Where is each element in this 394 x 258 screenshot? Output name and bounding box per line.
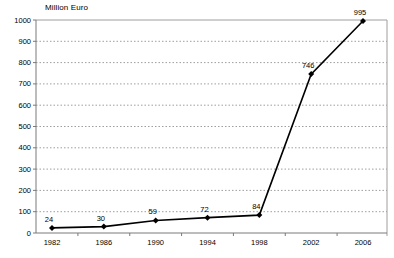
x-axis-tick-label: 2002 <box>303 238 320 247</box>
chart-window: Million Euro 010020030040050060070080090… <box>0 0 394 258</box>
y-axis-tick-label: 1000 <box>14 16 31 25</box>
data-point-marker <box>153 217 159 223</box>
data-point-marker <box>205 215 211 221</box>
data-point-label: 995 <box>354 8 367 17</box>
data-point-label: 84 <box>252 202 260 211</box>
x-axis-tick-label: 1982 <box>44 238 61 247</box>
y-axis-tick-label: 600 <box>18 101 31 110</box>
y-axis-tick-label: 100 <box>18 207 31 216</box>
x-axis-tick-label: 1986 <box>95 238 112 247</box>
x-axis-tick-label: 1994 <box>199 238 216 247</box>
y-axis-tick-label: 900 <box>18 37 31 46</box>
data-point-label: 24 <box>45 215 53 224</box>
y-axis-tick-label: 800 <box>18 58 31 67</box>
y-axis-tick-label: 500 <box>18 122 31 131</box>
x-axis-tick-label: 2006 <box>355 238 372 247</box>
data-point-marker <box>256 212 262 218</box>
data-point-label: 59 <box>148 207 156 216</box>
y-axis-tick-label: 200 <box>18 186 31 195</box>
data-point-label: 72 <box>200 205 208 214</box>
y-axis-tick-label: 400 <box>18 143 31 152</box>
data-point-marker <box>49 225 55 231</box>
data-point-label: 30 <box>97 214 105 223</box>
y-axis-tick-label: 0 <box>27 229 31 238</box>
y-axis-tick-label: 700 <box>18 79 31 88</box>
line-chart: 0100200300400500600700800900100019821986… <box>0 0 394 258</box>
data-point-label: 746 <box>302 61 315 70</box>
x-axis-tick-label: 1990 <box>147 238 164 247</box>
y-axis-tick-label: 300 <box>18 165 31 174</box>
x-axis-tick-label: 1998 <box>251 238 268 247</box>
data-series-line <box>52 21 363 228</box>
data-point-marker <box>101 224 107 230</box>
